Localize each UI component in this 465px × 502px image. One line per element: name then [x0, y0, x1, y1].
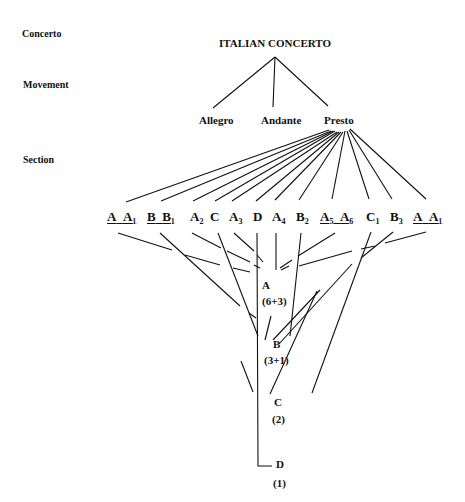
group-c-label: C	[274, 396, 282, 408]
section-c: C	[210, 210, 219, 224]
section-a5-a6: A5 A6	[320, 210, 353, 229]
section-a3: A3	[229, 210, 242, 229]
concerto-title: ITALIAN CONCERTO	[219, 37, 331, 49]
section-b-b1: B B1	[147, 210, 175, 229]
group-a-count: (6+3)	[262, 295, 287, 307]
section-a2: A2	[190, 210, 203, 229]
group-c-count: (2)	[272, 413, 285, 425]
group-d-label: D	[276, 458, 284, 470]
group-b-label: B	[273, 338, 280, 350]
movement-andante: Andante	[261, 114, 301, 126]
movement-allegro: Allegro	[199, 114, 234, 126]
section-d: D	[253, 210, 262, 224]
movement-presto: Presto	[324, 114, 354, 126]
section-c1: C1	[366, 210, 379, 229]
section-a-a1: A A1	[107, 210, 136, 229]
section-a-a1-return: A A1	[413, 210, 442, 229]
group-d-count: (1)	[273, 477, 286, 489]
section-a4: A4	[272, 210, 285, 229]
level-label-section: Section	[23, 154, 54, 165]
section-b2: B2	[296, 210, 309, 229]
level-label-concerto: Concerto	[22, 28, 61, 39]
group-a-label: A	[262, 279, 270, 291]
group-b-count: (3+1)	[264, 354, 289, 366]
level-label-movement: Movement	[23, 79, 69, 90]
section-b3: B3	[390, 210, 403, 229]
tree-diagram-lines	[0, 0, 465, 502]
